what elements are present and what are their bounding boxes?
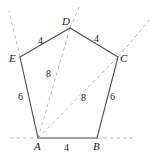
diagonal-length-label-AD: 8 bbox=[46, 69, 51, 79]
diagonal-length-label-AC: 8 bbox=[81, 93, 86, 103]
edge-length-label-CD: 4 bbox=[94, 34, 99, 44]
vertex-label-D: D bbox=[62, 16, 70, 27]
extension-through-E-up bbox=[9, 11, 20, 57]
pentagon-outline bbox=[20, 28, 118, 138]
edge-length-label-BC: 6 bbox=[110, 92, 115, 102]
figure-canvas bbox=[0, 0, 155, 158]
vertex-label-C: C bbox=[120, 53, 127, 64]
diagonal-dashed-lines bbox=[38, 28, 118, 138]
edge-length-label-EA: 6 bbox=[18, 92, 23, 102]
vertex-label-A: A bbox=[34, 141, 41, 152]
extension-through-C-up bbox=[118, 17, 152, 57]
extension-dashed-lines bbox=[9, 5, 152, 138]
edge-length-label-AB: 4 bbox=[64, 143, 69, 153]
extension-through-D-up bbox=[70, 5, 80, 28]
geometry-figure: ABCDE4644688 bbox=[0, 0, 155, 158]
edge-length-label-DE: 4 bbox=[38, 36, 43, 46]
vertex-label-E: E bbox=[9, 53, 16, 64]
vertex-label-B: B bbox=[93, 141, 100, 152]
